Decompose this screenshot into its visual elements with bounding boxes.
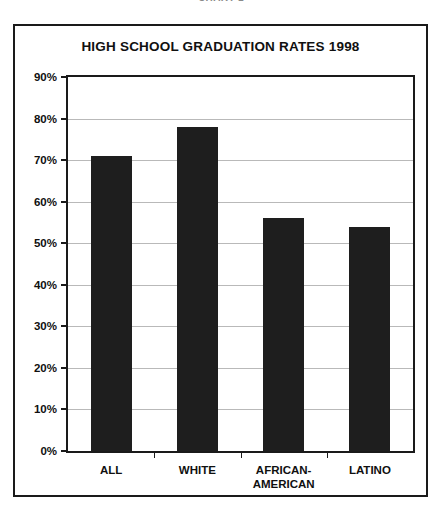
y-axis-tick [61,450,68,452]
y-axis-tick-label: 70% [34,154,57,166]
bar [91,156,132,451]
y-axis-tick [61,408,68,410]
y-axis-tick-label: 40% [34,279,57,291]
y-axis-tick-label: 80% [34,113,57,125]
y-axis-tick-label: 10% [34,403,57,415]
y-axis-tick [61,118,68,120]
bar [349,227,390,451]
y-axis-tick [61,242,68,244]
chart-title: HIGH SCHOOL GRADUATION RATES 1998 [15,39,426,54]
cut-off-page-header: CHART 1 [0,0,442,5]
y-axis-tick-label: 20% [34,362,57,374]
x-axis-tick [154,451,155,458]
y-axis-tick [61,76,68,78]
plot-area: 0%10%20%30%40%50%60%70%80%90% ALLWHITEAF… [66,75,415,453]
x-axis-tick [241,451,242,458]
y-axis-tick-label: 60% [34,196,57,208]
y-axis-tick [61,367,68,369]
gridline [68,119,413,120]
y-axis-tick [61,201,68,203]
y-axis-tick-label: 50% [34,237,57,249]
y-axis-tick-label: 30% [34,320,57,332]
y-axis-tick-label: 90% [34,71,57,83]
bar [177,127,218,451]
y-axis-tick [61,284,68,286]
chart-frame: HIGH SCHOOL GRADUATION RATES 1998 0%10%2… [13,24,428,497]
y-axis-tick-label: 0% [40,445,57,457]
y-axis-tick [61,159,68,161]
bar [263,218,304,451]
x-axis-tick [327,451,328,458]
x-axis-category-label: LATINO [315,463,425,477]
cut-off-header-text: CHART 1 [0,0,442,5]
y-axis-tick [61,325,68,327]
